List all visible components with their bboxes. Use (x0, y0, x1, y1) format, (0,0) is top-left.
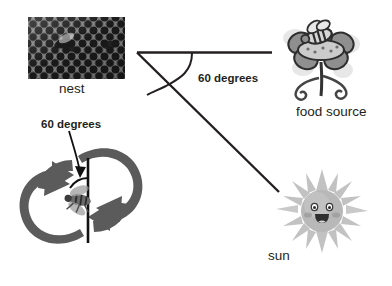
vector-overlay (0, 0, 392, 286)
food-source-flower-icon (283, 15, 360, 100)
diagram-canvas: nest 60 degrees 60 degrees food source s… (0, 0, 392, 286)
angle-arc (147, 53, 192, 95)
dance-angle-leader-arrowhead (75, 166, 86, 178)
sun-icon (276, 169, 368, 253)
waggle-dance-diagram (20, 131, 143, 244)
angle-rays (137, 53, 279, 193)
ray-to-sun (137, 53, 279, 193)
